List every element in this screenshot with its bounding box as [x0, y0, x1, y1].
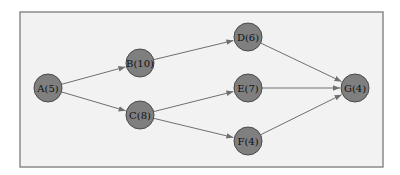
node-label: D(6) — [237, 32, 259, 43]
node-label: C(8) — [129, 110, 151, 121]
node-label: F(4) — [237, 136, 258, 147]
node-e: E(7) — [234, 74, 262, 102]
node-label: E(7) — [237, 83, 259, 94]
node-c: C(8) — [126, 101, 154, 129]
node-a: A(5) — [34, 74, 62, 102]
node-label: A(5) — [36, 83, 58, 94]
node-b: B(10) — [126, 49, 154, 77]
diagram-frame — [20, 12, 383, 167]
node-f: F(4) — [234, 127, 262, 155]
node-d: D(6) — [234, 23, 262, 51]
node-label: B(10) — [126, 58, 154, 69]
network-diagram: A(5)B(10)C(8)D(6)E(7)F(4)G(4) — [0, 0, 400, 175]
node-g: G(4) — [341, 74, 369, 102]
node-label: G(4) — [344, 83, 366, 94]
